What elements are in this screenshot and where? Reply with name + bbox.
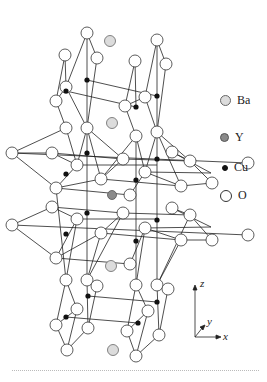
legend-label: Ba [237, 93, 250, 108]
cu-swatch-icon [222, 165, 228, 171]
y-swatch-icon [220, 133, 229, 142]
legend-item-cu: Cu [222, 160, 248, 175]
legend-label: Cu [234, 160, 248, 175]
legend-label: O [238, 188, 247, 203]
dotted-divider [12, 370, 259, 371]
legend-item-ba: Ba [220, 93, 250, 108]
axis-x-label: x [223, 330, 228, 342]
o-atoms [6, 27, 254, 362]
legend-item-y: Y [220, 130, 244, 145]
legend-item-o: O [220, 188, 247, 203]
axis-z-label: z [200, 277, 204, 289]
legend-label: Y [235, 130, 244, 145]
o-swatch-icon [220, 190, 232, 202]
axis-y-label: y [207, 315, 212, 327]
axis-triad [193, 285, 221, 339]
cu-atoms [63, 77, 159, 325]
y-atom [108, 191, 117, 200]
ba-swatch-icon [220, 95, 231, 106]
